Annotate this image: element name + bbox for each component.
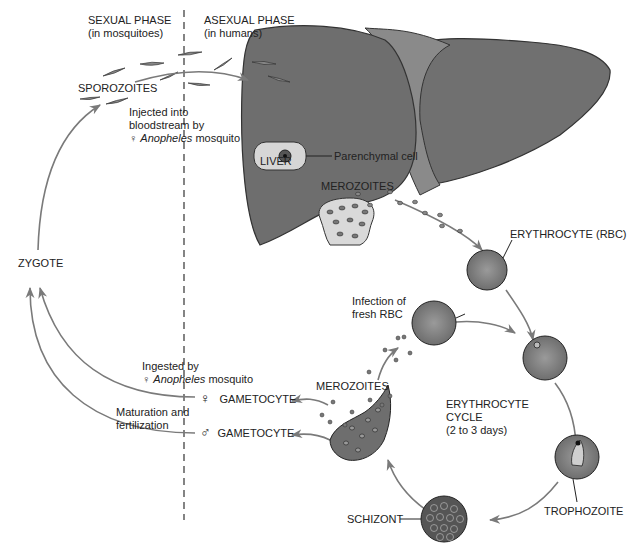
rbc-erythrocyte — [467, 250, 507, 290]
maturation-label: Maturation and fertilization — [116, 406, 189, 432]
male-gametocyte-label: ♂ GAMETOCYTE — [200, 426, 294, 440]
female-gametocyte-label: ♀ GAMETOCYTE — [200, 392, 296, 406]
rbc-ring-stage — [523, 336, 567, 380]
rbc-fresh — [412, 301, 456, 345]
infection-label: Infection of fresh RBC — [352, 295, 406, 321]
arrow-zygote-to-sporozoites — [38, 105, 100, 250]
trophozoite-label: TROPHOZOITE — [544, 505, 623, 518]
erythrocyte-label: ERYTHROCYTE (RBC) — [510, 228, 627, 241]
female-symbol-icon: ♀ — [200, 390, 211, 406]
sexual-phase-title: SEXUAL PHASE — [88, 14, 171, 27]
sporozoites-label: SPOROZOITES — [78, 82, 157, 95]
liver-schizont — [319, 198, 374, 245]
arrow-to-male-gametocyte — [292, 434, 330, 440]
sexual-phase-subtitle: (in mosquitoes) — [88, 27, 163, 40]
female-symbol-icon: ♀ — [129, 132, 137, 144]
erythrocyte-cycle-label: ERYTHROCYTE CYCLE (2 to 3 days) — [446, 398, 529, 437]
asexual-phase-title: ASEXUAL PHASE — [204, 14, 295, 27]
arrow-merozoites-to-fresh — [378, 348, 398, 380]
male-symbol-icon: ♂ — [200, 424, 211, 440]
liver-label: LIVER — [260, 155, 292, 168]
zygote-label: ZYGOTE — [18, 257, 63, 270]
asexual-phase-subtitle: (in humans) — [204, 27, 262, 40]
arrow-fresh-to-rbc2 — [456, 322, 515, 333]
liver-right-lobe — [404, 39, 610, 185]
injected-label: Injected into bloodstream by ♀ Anopheles… — [129, 106, 240, 145]
rbc-merozoites-label: MEROZOITES — [316, 380, 389, 393]
schizont-label: SCHIZONT — [347, 513, 403, 526]
parenchymal-cell-label: Parenchymal cell — [334, 150, 418, 163]
arrow-liver-to-rbc — [395, 200, 482, 250]
arrow-sporozoites-to-liver — [135, 72, 248, 82]
arrow-to-female-gametocyte — [292, 399, 328, 405]
ingested-label: Ingested by ♀ Anopheles mosquito — [142, 360, 253, 386]
female-symbol-icon: ♀ — [142, 373, 150, 385]
arrow-rbc1-to-rbc2 — [506, 290, 533, 340]
liver-merozoites-label: MEROZOITES — [321, 180, 394, 193]
